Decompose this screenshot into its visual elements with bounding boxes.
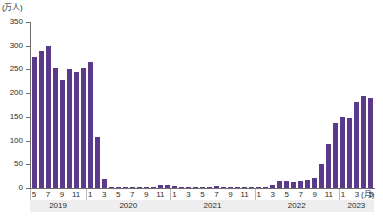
plot-area <box>30 22 374 188</box>
bar <box>144 187 149 188</box>
bar <box>123 187 128 188</box>
y-axis-tick-label: 0 <box>0 183 23 192</box>
y-axis-unit-label: (万人) <box>2 1 23 12</box>
bar <box>39 51 44 188</box>
x-axis-month-label: 11 <box>70 190 82 200</box>
bar <box>312 178 317 188</box>
bar <box>347 118 352 188</box>
bar <box>214 186 219 188</box>
x-axis-year-band: 2022 <box>255 200 340 212</box>
bar <box>284 181 289 188</box>
bar <box>270 185 275 188</box>
bar <box>263 187 268 188</box>
bar <box>249 187 254 188</box>
x-axis-month-label: 5 <box>196 190 208 200</box>
bar <box>319 164 324 188</box>
bar <box>53 68 58 188</box>
bar <box>228 187 233 188</box>
bar <box>193 187 198 188</box>
bar <box>60 80 65 188</box>
bar <box>277 181 282 188</box>
bar <box>102 179 107 188</box>
x-axis-month-label: 3 <box>182 190 194 200</box>
x-axis-year-band: 2021 <box>170 200 255 212</box>
bar <box>165 185 170 188</box>
x-axis-month-label: 9 <box>225 190 237 200</box>
bar <box>291 182 296 188</box>
x-axis-year-band: 2019 <box>30 200 87 212</box>
bar <box>221 187 226 188</box>
bar <box>235 187 240 188</box>
bar <box>340 117 345 188</box>
y-axis-tick-label: 250 <box>0 64 23 73</box>
x-axis-year-separator <box>86 189 87 200</box>
bar <box>67 69 72 188</box>
bar <box>179 187 184 188</box>
x-axis-month-label: 7 <box>295 190 307 200</box>
bar <box>151 187 156 188</box>
y-axis-tick-label: 300 <box>0 41 23 50</box>
bar <box>207 187 212 188</box>
bar <box>74 72 79 188</box>
x-axis-month-label: 9 <box>56 190 68 200</box>
bar <box>88 62 93 188</box>
x-axis-year-separator <box>339 189 340 200</box>
x-axis-year-separator <box>170 189 171 200</box>
x-axis-month-label: 9 <box>140 190 152 200</box>
bar <box>333 123 338 188</box>
y-axis-tick-label: 350 <box>0 17 23 26</box>
bar <box>172 186 177 188</box>
bar <box>242 187 247 188</box>
bar <box>32 57 37 188</box>
x-axis-month-label: 11 <box>239 190 251 200</box>
x-axis-month-label: 11 <box>323 190 335 200</box>
x-axis-year-separator <box>30 189 31 200</box>
bar <box>368 98 373 188</box>
x-axis-month-unit-label: (月) <box>361 190 374 200</box>
bar <box>298 181 303 188</box>
x-axis-year-band: 2020 <box>86 200 171 212</box>
x-axis-year-separator <box>255 189 256 200</box>
bar <box>158 185 163 188</box>
bar <box>116 187 121 188</box>
bar <box>361 96 366 188</box>
bar <box>130 187 135 188</box>
y-axis-tick-label: 150 <box>0 112 23 121</box>
bar <box>305 180 310 188</box>
bar <box>81 68 86 188</box>
bar <box>109 187 114 188</box>
x-axis-year-band: 2023 <box>339 200 375 212</box>
x-axis-month-label: 7 <box>211 190 223 200</box>
x-axis-line <box>30 188 375 189</box>
x-axis-month-label: 5 <box>281 190 293 200</box>
y-axis-tick-label: 50 <box>0 159 23 168</box>
y-axis-tick-label: 100 <box>0 136 23 145</box>
x-axis-month-label: 3 <box>98 190 110 200</box>
bar <box>137 187 142 188</box>
bar <box>186 187 191 188</box>
bar-chart: (万人) 050100150200250300350 5791113579111… <box>0 0 383 220</box>
x-axis-month-label: 5 <box>112 190 124 200</box>
x-axis-month-label: 11 <box>154 190 166 200</box>
bar <box>354 102 359 188</box>
y-axis-tick-label: 200 <box>0 88 23 97</box>
bar <box>256 187 261 188</box>
x-axis-month-label: 7 <box>126 190 138 200</box>
bar <box>326 144 331 188</box>
bar <box>46 46 51 188</box>
x-axis-month-label: 7 <box>42 190 54 200</box>
bar <box>200 187 205 188</box>
bar <box>95 137 100 188</box>
x-axis-month-label: 9 <box>309 190 321 200</box>
x-axis-month-label: 3 <box>267 190 279 200</box>
